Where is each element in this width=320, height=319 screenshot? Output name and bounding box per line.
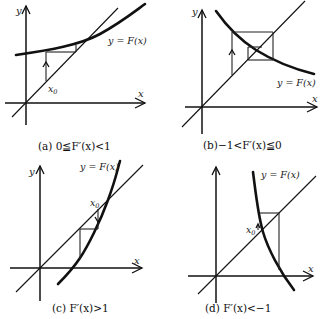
identity-line (12, 8, 118, 117)
panel-d: x y = F(x) x0 (d) F′(x)<−1 (188, 167, 316, 314)
caption-c: (c) F′(x)>1 (52, 302, 109, 314)
x-axis-label: x (312, 93, 318, 104)
y-axis-label: y (191, 6, 198, 17)
function-curve (58, 161, 120, 284)
panel-b: y x y = F(x) (b)−1<F′(x)≦0 (182, 1, 318, 151)
caption-b: (b)−1<F′(x)≦0 (203, 139, 282, 151)
panel-c: y x y = F(x) x0 (c) F′(x)>1 (10, 161, 143, 314)
x-axis-label: x (134, 255, 140, 266)
identity-line (16, 165, 143, 292)
start-label: x0 (90, 197, 100, 210)
y-axis-label: y (15, 5, 22, 16)
curve-label: y = F(x) (276, 77, 316, 88)
fixed-point-iteration-figure: y x y = F(x) x0 (a) 0≦F′(x)<1 y x y = F(… (0, 0, 320, 319)
caption-d: (d) F′(x)<−1 (205, 302, 271, 314)
function-curve (253, 172, 294, 290)
curve-label: y = F(x) (107, 35, 147, 46)
start-label: x0 (246, 224, 256, 237)
curve-label: y = F(x) (79, 161, 119, 172)
x-axis-label: x (138, 88, 144, 99)
panel-a: y x y = F(x) x0 (a) 0≦F′(x)<1 (5, 4, 147, 152)
y-axis-label: y (28, 166, 35, 177)
caption-a: (a) 0≦F′(x)<1 (38, 140, 111, 152)
x-axis-label: x (308, 263, 314, 274)
start-label: x0 (48, 83, 58, 96)
curve-label: y = F(x) (260, 169, 300, 180)
